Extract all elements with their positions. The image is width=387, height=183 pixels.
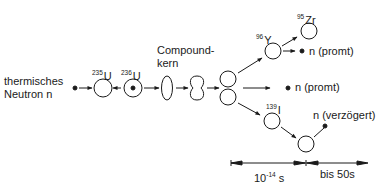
prompt-neutron-label-1: n (promt): [309, 45, 354, 58]
fragment-upper: [220, 71, 236, 87]
deformed-nucleus: [162, 76, 173, 100]
delayed-neutron-label: n (verzögert): [313, 109, 375, 122]
y96-label: 96Y: [256, 31, 272, 46]
u236-mass: 236: [121, 69, 132, 76]
u236-label: 236U: [121, 67, 141, 82]
fragment-lower: [220, 89, 236, 105]
zr95-label: 95Zr: [297, 11, 316, 26]
u235-mass: 235: [92, 69, 103, 76]
y96-mass: 96: [256, 33, 263, 40]
incoming-line2: Neutron n: [4, 88, 63, 101]
neutron-dot-incoming: [73, 86, 77, 90]
compound-line1: Compound-: [157, 44, 214, 57]
y96-symbol: Y: [264, 34, 271, 46]
prompt-neutron-label-2: n (promt): [295, 81, 340, 94]
xe139-nucleus: [298, 136, 314, 152]
neutron-dot-prompt2: [286, 86, 290, 90]
timeline-left-base: 10: [254, 172, 266, 183]
timeline-left-unit: s: [276, 172, 285, 183]
splitting-nucleus: [190, 76, 203, 100]
neutron-dot-delayed: [323, 124, 327, 128]
zr95-mass: 95: [297, 13, 304, 20]
i139-symbol: I: [278, 104, 281, 116]
u236-symbol: U: [133, 70, 141, 82]
incoming-line1: thermisches: [4, 75, 63, 88]
zr95-symbol: Zr: [305, 14, 315, 26]
compound-nucleus-label: Compound- kern: [157, 44, 214, 70]
compound-line2: kern: [157, 57, 214, 70]
i139-label: 139I: [266, 101, 281, 116]
u235-symbol: U: [104, 70, 112, 82]
neutron-dot-prompt1: [300, 49, 304, 53]
i139-mass: 139: [266, 103, 277, 110]
incoming-neutron-label: thermisches Neutron n: [4, 75, 63, 101]
timeline-left-label: 10-14 s: [254, 168, 284, 183]
timeline-left-exp: -14: [266, 171, 275, 178]
timeline-axis: [231, 160, 368, 166]
u235-label: 235U: [92, 67, 112, 82]
timeline-right-label: bis 50s: [320, 168, 355, 181]
